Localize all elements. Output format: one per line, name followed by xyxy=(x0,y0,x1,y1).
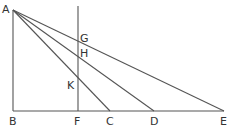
geometry-diagram: A B F C D E G H K xyxy=(0,0,229,140)
label-e: E xyxy=(220,115,227,128)
segment-ac xyxy=(13,10,110,111)
label-b: B xyxy=(9,115,17,128)
label-a: A xyxy=(2,3,10,16)
segment-ae xyxy=(13,10,224,111)
label-d: D xyxy=(150,115,158,128)
label-k: K xyxy=(67,79,75,92)
label-g: G xyxy=(80,32,89,45)
label-c: C xyxy=(106,115,114,128)
label-f: F xyxy=(74,115,80,128)
segment-ad xyxy=(13,10,154,111)
label-h: H xyxy=(80,47,88,60)
